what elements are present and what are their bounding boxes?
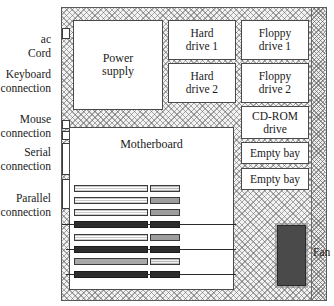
empty-bay-2-box: Empty bay — [241, 168, 309, 190]
floppy-drive-2-label: Floppy drive 2 — [259, 70, 292, 96]
expansion-slot-7-short — [150, 258, 180, 265]
slot-8-lead-right — [180, 274, 236, 275]
slot-6-lead-right — [180, 249, 236, 250]
cdrom-drive-box: CD-ROM drive — [241, 106, 309, 139]
label-parallel-connection: Parallel connection — [1, 192, 51, 219]
expansion-slot-7-long — [74, 258, 148, 265]
expansion-slot-1-long — [74, 185, 148, 192]
hard-drive-2-box: Hard drive 2 — [168, 63, 236, 103]
hard-drive-1-label: Hard drive 1 — [186, 27, 218, 53]
expansion-slot-5-long — [74, 234, 148, 241]
empty-bay-1-box: Empty bay — [241, 142, 309, 164]
slot-4-lead-right — [180, 224, 236, 225]
empty-bay-1-label: Empty bay — [250, 147, 300, 160]
label-fan: Fan — [313, 246, 330, 258]
floppy-drive-2-box: Floppy drive 2 — [241, 63, 309, 103]
expansion-slot-3-short — [150, 209, 180, 216]
expansion-slot-1-short — [150, 185, 180, 192]
fan-block — [277, 225, 306, 286]
floppy-drive-1-box: Floppy drive 1 — [241, 20, 309, 60]
power-supply-box: Power supply — [73, 20, 163, 110]
power-supply-label: Power supply — [102, 52, 134, 79]
expansion-slot-3-long — [74, 209, 148, 216]
label-ac-cord: ac Cord — [28, 33, 51, 60]
expansion-slot-2-short — [150, 197, 180, 204]
expansion-slot-2-long — [74, 197, 148, 204]
label-serial-connection: Serial connection — [1, 146, 51, 173]
floppy-drive-1-label: Floppy drive 1 — [259, 27, 292, 53]
hard-drive-2-label: Hard drive 2 — [186, 70, 218, 96]
hard-drive-1-box: Hard drive 1 — [168, 20, 236, 60]
expansion-slot-5-short — [150, 234, 180, 241]
ac-cord-port — [62, 28, 70, 39]
label-mouse-connection: Mouse connection — [1, 113, 51, 140]
label-keyboard-connection: Keyboard connection — [1, 68, 51, 95]
diagram-canvas: ac Cord Keyboard connection Mouse connec… — [0, 0, 334, 306]
empty-bay-2-label: Empty bay — [250, 173, 300, 186]
motherboard-label: Motherboard — [120, 138, 183, 151]
cdrom-drive-label: CD-ROM drive — [252, 110, 298, 136]
